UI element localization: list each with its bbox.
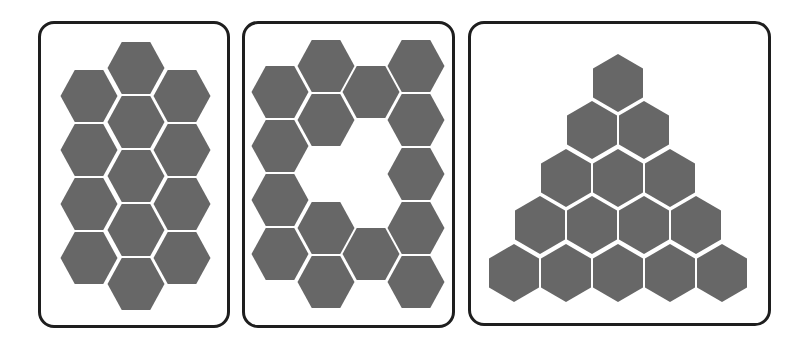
hexagon-tile [108, 258, 165, 310]
hexagon-tile [489, 244, 539, 302]
hexagon-tile [61, 124, 118, 176]
hexagon-tile [108, 42, 165, 94]
hexagon-tile [593, 149, 643, 207]
hexagon-tile [154, 124, 211, 176]
hexagon-tile [619, 101, 669, 159]
hexagon-tile [298, 256, 355, 308]
hexagon-tile [515, 196, 565, 254]
hexagon-tile [298, 94, 355, 146]
hexagon-tile [388, 40, 445, 92]
hexagon-tile [541, 244, 591, 302]
hexagon-tile [108, 96, 165, 148]
hexagon-tile [252, 228, 309, 280]
hexagon-tile [108, 204, 165, 256]
hexagon-tile [388, 202, 445, 254]
hexagon-tile [298, 202, 355, 254]
hexagon-tile [567, 101, 617, 159]
hexagon-tile [567, 196, 617, 254]
hexagon-tile [619, 196, 669, 254]
hexagon-tile [61, 70, 118, 122]
hexagon-tile [252, 66, 309, 118]
hexagon-tile [388, 94, 445, 146]
hexagon-layer [0, 0, 805, 346]
hexagon-tile [343, 66, 400, 118]
hexagon-tile [154, 178, 211, 230]
hexagon-tile [671, 196, 721, 254]
hexagon-tile [298, 40, 355, 92]
hexagon-tile [645, 244, 695, 302]
hexagon-tile [154, 70, 211, 122]
hexagon-tile [593, 244, 643, 302]
hexagon-tile [697, 244, 747, 302]
hexagon-tile [388, 148, 445, 200]
hexagon-tile [61, 178, 118, 230]
hexagon-tile [61, 232, 118, 284]
hexagon-tile [252, 174, 309, 226]
hexagon-tile [343, 228, 400, 280]
hexagon-tile [108, 150, 165, 202]
hexagon-tile [541, 149, 591, 207]
hexagon-tile [645, 149, 695, 207]
hexagon-tile [593, 54, 643, 112]
hexagon-tile [154, 232, 211, 284]
hexagon-tile [388, 256, 445, 308]
hexagon-tile [252, 120, 309, 172]
